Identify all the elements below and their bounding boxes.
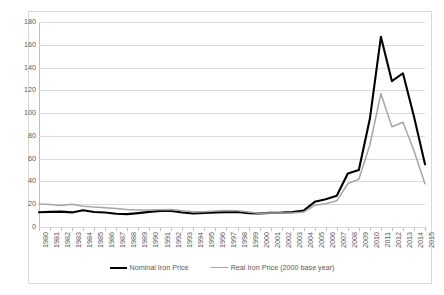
- x-axis-tick-label: 1999: [252, 232, 260, 248]
- x-axis-tick-mark: [138, 228, 139, 231]
- legend-swatch-icon: [211, 267, 228, 268]
- x-axis-tick-mark: [249, 228, 250, 231]
- series-line-nominal-iron-price: [39, 37, 425, 214]
- x-axis-tick-mark: [260, 228, 261, 231]
- y-axis-tick-label: 0: [2, 223, 36, 231]
- x-axis-tick-label: 1981: [53, 232, 61, 248]
- x-axis-tick-label: 2010: [373, 232, 381, 248]
- x-axis-tick-mark: [370, 228, 371, 231]
- series-line-real-iron-price: [39, 94, 425, 214]
- x-axis-tick-label: 1983: [75, 232, 83, 248]
- x-axis-tick-label: 1997: [230, 232, 238, 248]
- x-axis-tick-mark: [105, 228, 106, 231]
- y-axis-tick-label: 120: [2, 86, 36, 94]
- x-axis-tick-label: 1990: [152, 232, 160, 248]
- x-axis-tick-mark: [39, 228, 40, 231]
- legend-label: Nominal Iron Price: [130, 263, 189, 272]
- x-axis-tick-mark: [94, 228, 95, 231]
- plot-area: [39, 22, 425, 227]
- legend-entry-nominal-iron-price[interactable]: Nominal Iron Price: [110, 263, 189, 272]
- x-axis-tick-label: 1991: [164, 232, 172, 248]
- x-axis-tick-mark: [282, 228, 283, 231]
- x-axis-tick-label: 1986: [108, 232, 116, 248]
- x-axis-tick-label: 2003: [296, 232, 304, 248]
- x-axis-tick-label: 1988: [130, 232, 138, 248]
- y-axis-tick-label: 100: [2, 109, 36, 117]
- x-axis-tick-label: 1995: [208, 232, 216, 248]
- chart-legend: Nominal Iron PriceReal Iron Price (2000 …: [0, 263, 444, 272]
- x-axis-tick-label: 1989: [141, 232, 149, 248]
- iron-price-line-chart: 020406080100120140160180 198019811982198…: [0, 0, 444, 295]
- x-axis-tick-labels: 1980198119821983198419851986198719881989…: [39, 232, 426, 262]
- x-axis-tick-label: 2001: [274, 232, 282, 248]
- x-axis-tick-mark: [215, 228, 216, 231]
- x-axis-tick-label: 1998: [241, 232, 249, 248]
- x-axis-tick-label: 2005: [318, 232, 326, 248]
- x-axis-tick-mark: [425, 228, 426, 231]
- x-axis-tick-label: 2000: [263, 232, 271, 248]
- x-axis-tick-mark: [72, 228, 73, 231]
- legend-label: Real Iron Price (2000 base year): [231, 263, 335, 272]
- x-axis-tick-mark: [348, 228, 349, 231]
- x-axis-tick-label: 2009: [362, 232, 370, 248]
- y-axis-tick-label: 40: [2, 177, 36, 185]
- x-axis-tick-mark: [226, 228, 227, 231]
- x-axis-tick-label: 2008: [351, 232, 359, 248]
- x-axis-tick-label: 2015: [428, 232, 436, 248]
- y-axis-tick-label: 140: [2, 64, 36, 72]
- x-axis-tick-label: 1987: [119, 232, 127, 248]
- x-axis-tick-label: 2011: [384, 232, 392, 247]
- x-axis-tick-mark: [160, 228, 161, 231]
- x-axis-tick-label: 1980: [42, 232, 50, 248]
- y-axis-tick-label: 160: [2, 41, 36, 49]
- x-axis-tick-label: 1985: [97, 232, 105, 248]
- x-axis-tick-mark: [61, 228, 62, 231]
- x-axis-tick-label: 2006: [329, 232, 337, 248]
- x-axis-tick-mark: [315, 228, 316, 231]
- x-axis-tick-mark: [304, 228, 305, 231]
- x-axis-tick-mark: [182, 228, 183, 231]
- x-axis-tick-mark: [271, 228, 272, 231]
- y-axis-tick-label: 20: [2, 200, 36, 208]
- series-lines: [39, 22, 425, 227]
- x-axis-tick-mark: [193, 228, 194, 231]
- x-axis-tick-mark: [127, 228, 128, 231]
- x-axis-tick-label: 2012: [395, 232, 403, 248]
- x-axis-tick-mark: [392, 228, 393, 231]
- y-axis-tick-label: 60: [2, 155, 36, 163]
- x-axis-tick-mark: [149, 228, 150, 231]
- y-axis-tick-labels: 020406080100120140160180: [0, 0, 36, 295]
- x-axis-tick-label: 1993: [186, 232, 194, 248]
- x-axis-tick-label: 2007: [340, 232, 348, 248]
- x-axis-tick-mark: [116, 228, 117, 231]
- x-axis-tick-label: 1996: [219, 232, 227, 248]
- legend-swatch-icon: [110, 267, 127, 269]
- x-axis-tick-label: 1992: [175, 232, 183, 248]
- x-axis-tick-mark: [414, 228, 415, 231]
- x-axis-tick-mark: [293, 228, 294, 231]
- x-axis-tick-mark: [403, 228, 404, 231]
- x-axis-tick-label: 1994: [197, 232, 205, 248]
- x-axis-tick-label: 2013: [406, 232, 414, 248]
- legend-entry-real-iron-price[interactable]: Real Iron Price (2000 base year): [211, 263, 335, 272]
- x-axis-tick-mark: [381, 228, 382, 231]
- x-axis-tick-mark: [50, 228, 51, 231]
- y-axis-tick-label: 180: [2, 18, 36, 26]
- x-axis-tick-label: 1982: [64, 232, 72, 248]
- y-axis-tick-label: 80: [2, 132, 36, 140]
- x-axis-tick-mark: [83, 228, 84, 231]
- x-axis-tick-mark: [326, 228, 327, 231]
- x-axis-tick-label: 2002: [285, 232, 293, 248]
- x-axis-tick-label: 2014: [417, 232, 425, 248]
- x-axis-tick-label: 2004: [307, 232, 315, 248]
- x-axis-tick-mark: [337, 228, 338, 231]
- x-axis-tick-mark: [238, 228, 239, 231]
- x-axis-tick-mark: [359, 228, 360, 231]
- x-axis-tick-mark: [171, 228, 172, 231]
- x-axis-tick-mark: [204, 228, 205, 231]
- x-axis-tick-label: 1984: [86, 232, 94, 248]
